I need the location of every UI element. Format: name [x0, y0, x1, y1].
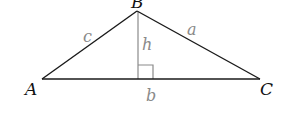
vertex-label-c: C — [260, 79, 273, 99]
side-label-c: c — [83, 27, 92, 46]
vertex-label-a: A — [23, 79, 37, 99]
altitude-label-h: h — [142, 35, 152, 54]
side-label-a: a — [187, 20, 197, 39]
side-label-b: b — [146, 86, 156, 105]
side-a-line — [137, 11, 260, 79]
right-angle-marker — [138, 65, 153, 79]
triangle-diagram: B A C c a h b — [0, 0, 295, 123]
vertex-label-b: B — [130, 0, 144, 12]
